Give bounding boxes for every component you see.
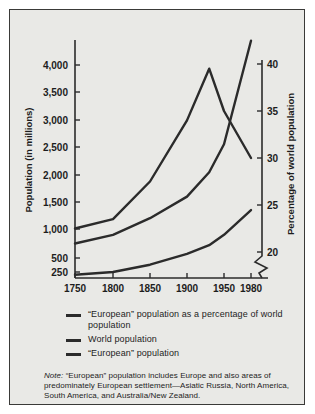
chart-legend: “European” population as a percentage of…	[66, 309, 301, 362]
y-axis-tick-label: 1,500	[43, 197, 68, 208]
data-line-series-2	[75, 210, 251, 275]
data-line-series-0	[75, 69, 251, 229]
x-axis-tick-label: 1850	[139, 283, 162, 294]
y-axis-tick-label: 250	[51, 267, 68, 278]
y-axis-title: Population (in millions)	[23, 107, 34, 212]
y2-axis-tick-label: 30	[267, 153, 279, 164]
data-line-series-1	[75, 41, 251, 244]
y-axis-tick-label: 1,000	[43, 224, 68, 235]
y2-axis-tick-label: 25	[267, 200, 279, 211]
note-label: Note:	[44, 371, 63, 380]
y-axis-tick-label: 3,000	[43, 115, 68, 126]
legend-item: “European” population	[66, 348, 301, 359]
y2-axis-tick-label: 40	[267, 59, 279, 70]
legend-item: “European” population as a percentage of…	[66, 309, 301, 331]
legend-line-swatch-icon	[66, 353, 81, 356]
y-axis-tick-label: 3,500	[43, 87, 68, 98]
y-axis-tick-label: 500	[51, 253, 68, 264]
population-line-chart: 2505001,0001,5002,0002,5003,0003,5004,00…	[10, 10, 306, 310]
note-body: “European” population includes Europe an…	[44, 371, 289, 400]
y2-axis-tick-label: 20	[267, 247, 279, 258]
figure-panel: 2505001,0001,5002,0002,5003,0003,5004,00…	[9, 9, 305, 405]
legend-item-label: World population	[88, 334, 157, 345]
x-axis-tick-label: 1750	[64, 283, 87, 294]
right-axis-break-icon	[255, 252, 267, 278]
x-axis-tick-label: 1950	[213, 283, 236, 294]
x-axis-tick-label: 1900	[176, 283, 199, 294]
chart-plot-area: 2505001,0001,5002,0002,5003,0003,5004,00…	[10, 10, 306, 310]
legend-item-label: “European” population	[88, 348, 179, 359]
chart-note: Note: “European” population includes Eur…	[44, 371, 296, 402]
y2-axis-title: Percentage of world population	[285, 93, 296, 235]
legend-line-swatch-icon	[66, 314, 81, 317]
y-axis-tick-label: 2,000	[43, 170, 68, 181]
y-axis-tick-label: 2,500	[43, 142, 68, 153]
legend-item-label: “European” population as a percentage of…	[88, 309, 301, 331]
legend-item: World population	[66, 334, 301, 345]
x-axis-tick-label: 1980	[240, 283, 263, 294]
legend-line-swatch-icon	[66, 339, 81, 342]
y-axis-tick-label: 4,000	[43, 60, 68, 71]
y2-axis-tick-label: 35	[267, 106, 279, 117]
x-axis-tick-label: 1800	[102, 283, 125, 294]
